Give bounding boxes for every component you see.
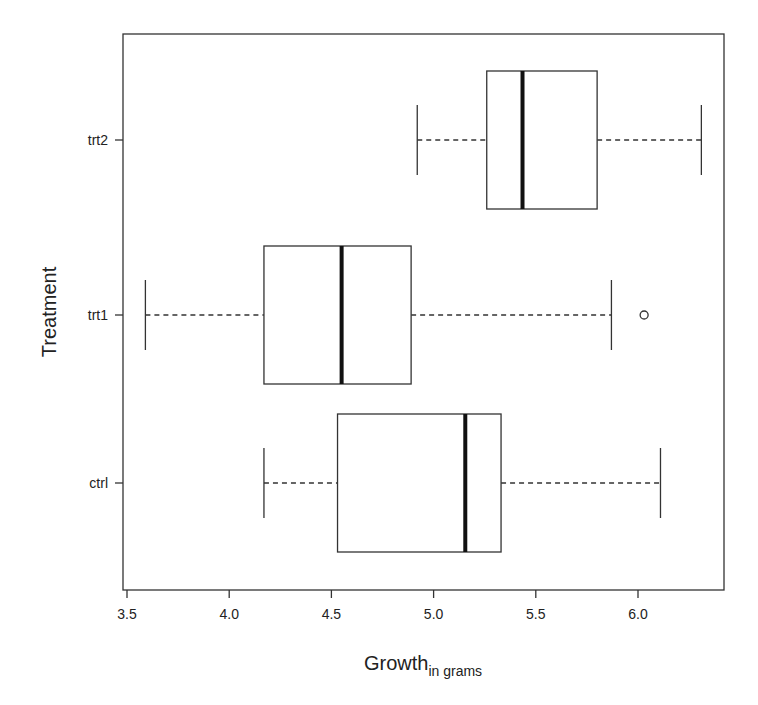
iqr-box [487, 71, 597, 209]
box-trt2 [417, 71, 701, 209]
x-axis: 3.54.04.55.05.56.0 [117, 590, 648, 622]
outlier-point [640, 311, 648, 319]
y-axis-title: Treatment [38, 266, 60, 357]
box-trt1 [145, 246, 648, 384]
y-tick-label: trt1 [88, 307, 108, 323]
x-tick-label: 6.0 [628, 606, 648, 622]
x-tick-label: 5.5 [526, 606, 546, 622]
x-tick-label: 5.0 [424, 606, 444, 622]
x-tick-label: 3.5 [117, 606, 137, 622]
y-tick-label: ctrl [89, 475, 108, 491]
boxplot-chart: 3.54.04.55.05.56.0 ctrltrt1trt2 Growthin… [0, 0, 758, 705]
x-axis-title: Growthin grams [364, 652, 482, 679]
y-axis: ctrltrt1trt2 [88, 132, 123, 491]
x-tick-label: 4.0 [219, 606, 239, 622]
iqr-box [338, 414, 502, 552]
box-ctrl [264, 414, 661, 552]
iqr-box [264, 246, 411, 384]
x-tick-label: 4.5 [322, 606, 342, 622]
boxes [145, 71, 701, 552]
y-tick-label: trt2 [88, 132, 108, 148]
